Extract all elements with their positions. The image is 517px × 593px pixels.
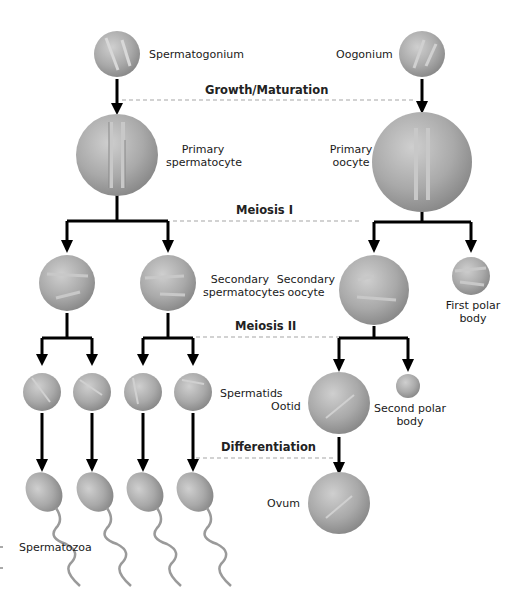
label-secondary-spermatocytes-l2: spermatocytes — [203, 286, 277, 299]
label-first-polar-body-l2: body — [440, 312, 506, 325]
stage-label-meiosis-2: Meiosis II — [235, 320, 296, 333]
label-primary-oocyte-l1: Primary — [326, 143, 376, 156]
margin-ticks — [0, 547, 3, 568]
label-spermatozoa: Spermatozoa — [19, 541, 92, 554]
stage-label-meiosis-1: Meiosis I — [236, 204, 293, 217]
spermatozoa-cells — [18, 465, 231, 586]
label-second-polar-body-l1: Second polar — [370, 402, 450, 415]
ovum-cell — [308, 472, 370, 534]
secondary-spermatocyte-cell-2 — [140, 255, 196, 311]
primary-oocyte-cell — [372, 112, 472, 212]
oogonium-cell — [399, 31, 445, 77]
label-secondary-spermatocytes-l1: Secondary — [203, 273, 277, 286]
label-primary-spermatocyte-l2: spermatocyte — [166, 156, 240, 169]
label-second-polar-body-l2: body — [370, 415, 450, 428]
label-oogonium: Oogonium — [336, 48, 393, 61]
stage-label-growth: Growth/Maturation — [205, 84, 328, 97]
second-polar-body-cell — [396, 374, 420, 398]
label-secondary-oocyte-l1: Secondary — [276, 273, 336, 286]
label-ootid: Ootid — [271, 400, 301, 413]
stage-label-differentiation: Differentiation — [221, 441, 316, 454]
ootid-cell — [308, 372, 370, 434]
primary-spermatocyte-cell — [76, 114, 158, 196]
spermatogonium-cell — [94, 31, 140, 77]
spermatid-cells — [23, 373, 212, 411]
secondary-spermatocyte-cell-1 — [39, 255, 95, 311]
gametogenesis-diagram: Growth/Maturation Meiosis I Meiosis II D… — [0, 0, 517, 593]
secondary-oocyte-cell — [339, 255, 409, 325]
first-polar-body-cell — [452, 257, 490, 295]
label-primary-spermatocyte-l1: Primary — [166, 143, 240, 156]
label-spermatids: Spermatids — [220, 387, 283, 400]
label-spermatogonium: Spermatogonium — [149, 48, 244, 61]
label-secondary-oocyte-l2: oocyte — [276, 286, 336, 299]
label-ovum: Ovum — [267, 497, 300, 510]
label-first-polar-body-l1: First polar — [440, 299, 506, 312]
label-primary-oocyte-l2: oocyte — [326, 156, 376, 169]
